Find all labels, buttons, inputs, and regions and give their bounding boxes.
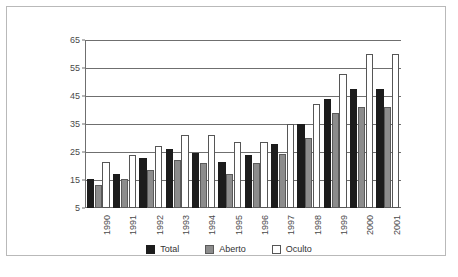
bar-group-1996: 1996 [245,40,268,208]
legend-swatch-oculto [272,245,281,254]
bar-total-1997[interactable] [271,144,278,208]
x-axis-label-1991: 1991 [128,215,138,235]
bar-group-1998: 1998 [297,40,320,208]
bar-total-1999[interactable] [324,99,331,208]
y-tick-mark-45 [82,96,85,97]
legend-item-aberto[interactable]: Aberto [205,244,246,254]
x-axis-label-1998: 1998 [313,215,323,235]
bar-group-1997: 1997 [271,40,294,208]
legend-label: Aberto [219,244,246,254]
chart-frame: 5152535455565 19901991199219931994199519… [6,6,446,256]
bar-oculto-1992[interactable] [155,146,162,208]
x-axis-label-1997: 1997 [286,215,296,235]
bar-aberto-1994[interactable] [200,163,207,208]
y-tick-label-15: 15 [70,175,80,185]
bar-total-1996[interactable] [245,155,252,208]
bar-group-1999: 1999 [324,40,347,208]
legend-item-total[interactable]: Total [146,244,179,254]
x-axis-label-1995: 1995 [234,215,244,235]
chart-page: 5152535455565 19901991199219931994199519… [0,0,458,277]
bar-oculto-2000[interactable] [366,54,373,208]
bar-aberto-1997[interactable] [279,154,286,208]
x-axis-label-1999: 1999 [339,215,349,235]
bar-total-1995[interactable] [218,162,225,208]
bar-group-1993: 1993 [166,40,189,208]
bar-total-1993[interactable] [166,149,173,208]
bar-group-1991: 1991 [113,40,136,208]
y-tick-mark-65 [82,40,85,41]
bar-group-1994: 1994 [192,40,215,208]
y-tick-label-35: 35 [70,119,80,129]
bar-oculto-2001[interactable] [392,54,399,208]
legend-swatch-total [146,245,155,254]
bar-aberto-2001[interactable] [384,107,391,208]
legend-label: Oculto [286,244,312,254]
bar-aberto-2000[interactable] [358,107,365,208]
bar-total-1998[interactable] [297,124,304,208]
chart-legend: TotalAbertoOculto [0,244,458,254]
bar-oculto-1997[interactable] [287,124,294,208]
x-axis-label-2001: 2001 [392,215,402,235]
y-tick-label-45: 45 [70,91,80,101]
x-axis-label-1990: 1990 [102,215,112,235]
y-tick-label-25: 25 [70,147,80,157]
legend-item-oculto[interactable]: Oculto [272,244,312,254]
bar-aberto-1993[interactable] [174,160,181,208]
x-axis-label-2000: 2000 [365,215,375,235]
bar-group-1990: 1990 [87,40,110,208]
x-axis-label-1993: 1993 [181,215,191,235]
y-tick-label-5: 5 [75,203,80,213]
bar-group-1992: 1992 [139,40,162,208]
bar-aberto-1996[interactable] [253,163,260,208]
bar-aberto-1992[interactable] [147,170,154,208]
bar-aberto-1998[interactable] [305,138,312,208]
bar-total-1990[interactable] [87,179,94,208]
bar-oculto-1990[interactable] [102,162,109,208]
bar-oculto-1996[interactable] [260,142,267,208]
plot-area: 5152535455565 19901991199219931994199519… [85,40,401,208]
bar-aberto-1991[interactable] [121,179,128,208]
bar-group-2000: 2000 [350,40,373,208]
bar-oculto-1991[interactable] [129,155,136,208]
bar-oculto-1999[interactable] [339,74,346,208]
bar-oculto-1995[interactable] [234,142,241,208]
x-axis-label-1994: 1994 [207,215,217,235]
y-tick-label-65: 65 [70,35,80,45]
legend-swatch-aberto [205,245,214,254]
bar-oculto-1994[interactable] [208,135,215,208]
bar-group-1995: 1995 [218,40,241,208]
bar-total-2000[interactable] [350,89,357,208]
bar-total-1991[interactable] [113,174,120,208]
x-axis-label-1992: 1992 [155,215,165,235]
y-tick-mark-35 [82,124,85,125]
bar-aberto-1990[interactable] [95,185,102,208]
x-axis-label-1996: 1996 [260,215,270,235]
bar-total-1992[interactable] [139,158,146,208]
bar-aberto-1999[interactable] [332,113,339,208]
bar-aberto-1995[interactable] [226,174,233,208]
y-tick-mark-55 [82,68,85,69]
y-tick-mark-5 [82,208,85,209]
caption-strip [8,266,248,274]
bar-oculto-1998[interactable] [313,104,320,208]
y-tick-mark-25 [82,152,85,153]
legend-label: Total [160,244,179,254]
bar-total-1994[interactable] [192,153,199,208]
bar-oculto-1993[interactable] [181,135,188,208]
y-tick-mark-15 [82,180,85,181]
y-tick-label-55: 55 [70,63,80,73]
bar-total-2001[interactable] [376,89,383,208]
bar-group-2001: 2001 [376,40,399,208]
